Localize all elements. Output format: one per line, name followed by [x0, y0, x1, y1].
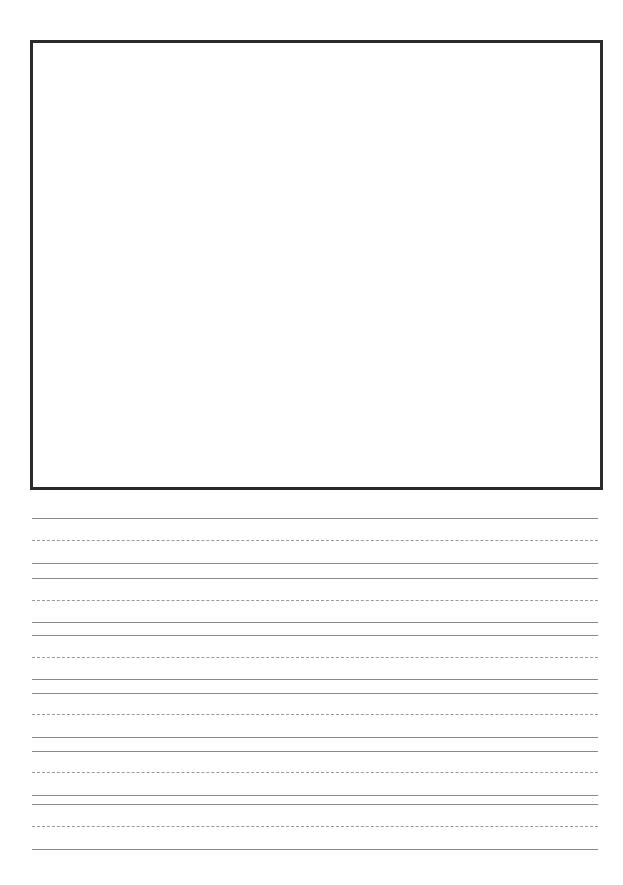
ruled-line [32, 795, 598, 796]
midline-dashed [32, 772, 598, 773]
ruled-line [32, 679, 598, 680]
ruled-line [32, 849, 598, 850]
ruled-line [32, 693, 598, 694]
ruled-line [32, 737, 598, 738]
ruled-line [32, 751, 598, 752]
midline-dashed [32, 657, 598, 658]
ruled-line [32, 563, 598, 564]
ruled-line [32, 804, 598, 805]
midline-dashed [32, 600, 598, 601]
ruled-line [32, 578, 598, 579]
drawing-box [30, 40, 603, 490]
ruled-line [32, 635, 598, 636]
midline-dashed [32, 826, 598, 827]
ruled-line [32, 622, 598, 623]
midline-dashed [32, 714, 598, 715]
midline-dashed [32, 540, 598, 541]
ruled-line [32, 518, 598, 519]
